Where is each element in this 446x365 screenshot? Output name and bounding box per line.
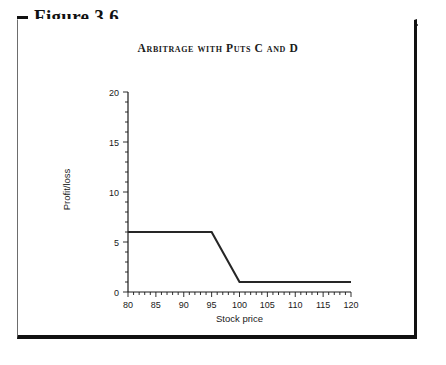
y-tick-label: 20: [109, 88, 119, 98]
chart-series: [128, 232, 351, 282]
x-tick-label: 115: [316, 300, 330, 310]
y-tick-label: 15: [109, 138, 119, 148]
x-tick-label: 110: [288, 300, 302, 310]
chart-svg: 8085909510010511011512005101520: [18, 20, 418, 336]
x-tick-label: 100: [232, 300, 247, 310]
chart-x-axis-label: Stock price: [18, 313, 446, 324]
y-tick-label: 5: [114, 238, 119, 248]
chart-y-axis-label: Profit/loss: [61, 150, 72, 230]
chart-ticks: [123, 92, 351, 297]
y-tick-label: 10: [109, 188, 119, 198]
x-tick-label: 105: [260, 300, 275, 310]
chart-axes: [128, 92, 351, 292]
chart-plot-area: 8085909510010511011512005101520 Profit/l…: [18, 20, 418, 336]
figure-frame: Arbitrage with Puts C and D 808590951001…: [17, 19, 417, 339]
chart-tick-labels: 8085909510010511011512005101520: [109, 88, 359, 311]
x-tick-label: 85: [151, 300, 161, 310]
y-tick-label: 0: [114, 288, 119, 298]
series-line: [128, 232, 351, 282]
x-tick-label: 95: [207, 300, 217, 310]
x-tick-label: 90: [179, 300, 189, 310]
x-tick-label: 80: [123, 300, 133, 310]
x-tick-label: 120: [343, 300, 358, 310]
